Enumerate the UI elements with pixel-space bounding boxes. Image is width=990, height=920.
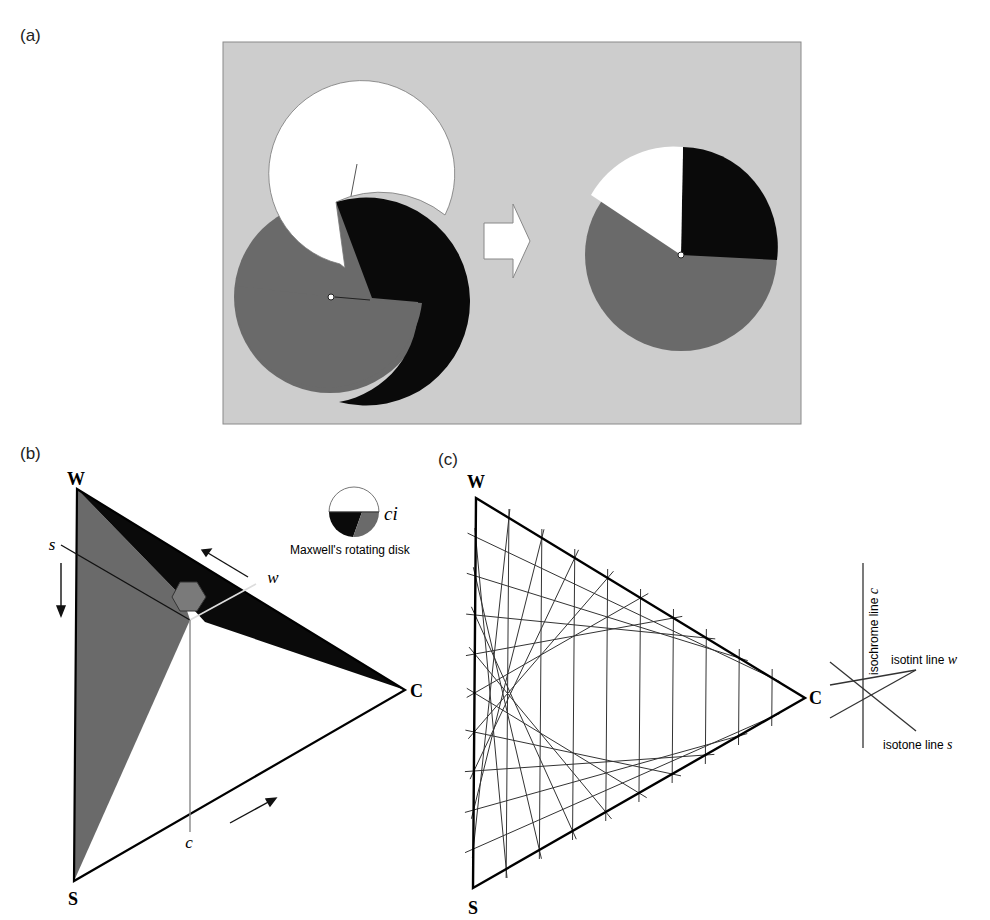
c-vertex-w-label: W bbox=[467, 472, 485, 492]
w-axis-label: w bbox=[267, 568, 279, 587]
c-vertex-c-label: C bbox=[809, 688, 822, 708]
arrow-up-left-icon bbox=[202, 549, 211, 556]
isochrome-label: isochrome line c bbox=[866, 587, 881, 675]
isotint-label: isotint line w bbox=[891, 652, 958, 667]
diagram-canvas: W C S s w c ci Maxwell's rotating disk W… bbox=[0, 0, 990, 920]
combined-disk bbox=[585, 146, 778, 351]
gray-disk-center bbox=[328, 294, 334, 300]
arrow-up-right-icon bbox=[266, 798, 276, 806]
s-axis-label: s bbox=[49, 535, 56, 554]
arrow-down-icon bbox=[57, 606, 65, 616]
ci-label: ci bbox=[384, 503, 398, 524]
maxwell-disk-illustration bbox=[223, 42, 801, 424]
vertex-c-label: C bbox=[410, 681, 423, 701]
maxwell-disk-legend-icon bbox=[329, 487, 379, 537]
vertex-s-label: S bbox=[68, 889, 78, 909]
isotone-label: isotone line s bbox=[883, 737, 953, 752]
maxwell-disk-caption: Maxwell's rotating disk bbox=[290, 543, 411, 557]
color-triangle-disk: W C S s w c ci Maxwell's rotating disk bbox=[49, 469, 423, 909]
c-vertex-s-label: S bbox=[468, 898, 478, 918]
ostwald-grid-triangle bbox=[465, 498, 805, 888]
combined-disk-center bbox=[678, 252, 684, 258]
vertex-w-label: W bbox=[67, 469, 85, 489]
c-axis-label: c bbox=[185, 833, 193, 852]
